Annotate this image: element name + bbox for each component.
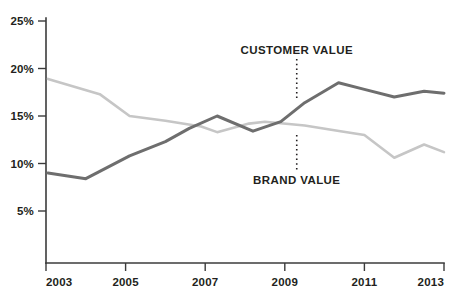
annotation-label-brand-value: BRAND VALUE — [253, 174, 340, 186]
y-axis-tick-labels: 5%10%15%20%25% — [10, 15, 34, 217]
x-axis-ticks — [46, 263, 444, 271]
x-tick-label: 2007 — [192, 276, 218, 288]
series-line-customer-value — [48, 83, 444, 179]
y-tick-label: 10% — [10, 158, 34, 170]
x-axis: 200320052007200920112013 — [46, 263, 444, 288]
y-axis-ticks — [38, 21, 46, 211]
x-tick-label: 2013 — [418, 276, 444, 288]
series-annotations: CUSTOMER VALUEBRAND VALUE — [240, 44, 353, 185]
y-tick-label: 20% — [10, 63, 34, 75]
y-tick-label: 5% — [17, 205, 34, 217]
x-axis-tick-labels: 200320052007200920112013 — [46, 276, 444, 288]
annotation-label-customer-value: CUSTOMER VALUE — [240, 44, 353, 56]
x-tick-label: 2005 — [112, 276, 139, 288]
x-tick-label: 2011 — [352, 276, 378, 288]
y-tick-label: 15% — [10, 110, 34, 122]
x-tick-label: 2009 — [272, 276, 298, 288]
series-line-brand-value — [48, 79, 444, 158]
data-series-group — [48, 79, 444, 179]
chart-page: 5%10%15%20%25% 200320052007200920112013 … — [0, 0, 457, 292]
line-chart: 5%10%15%20%25% 200320052007200920112013 … — [0, 0, 457, 292]
y-axis: 5%10%15%20%25% — [10, 15, 46, 263]
x-tick-label: 2003 — [46, 276, 72, 288]
y-tick-label: 25% — [10, 15, 34, 27]
